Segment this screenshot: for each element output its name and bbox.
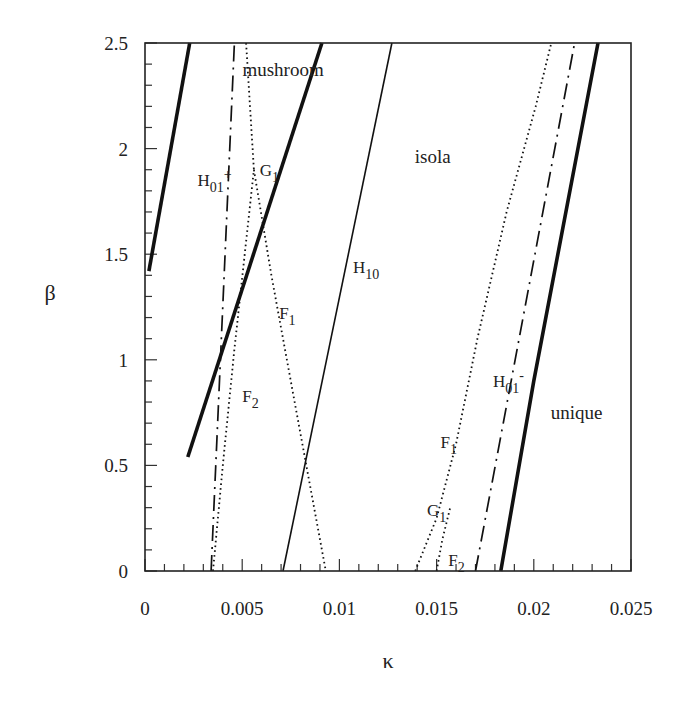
x-tick-label: 0.015	[415, 598, 458, 619]
y-tick-label: 0	[119, 561, 129, 582]
curve-h10	[283, 43, 392, 571]
curve-thick-left	[149, 43, 190, 271]
y-tick-label: 2.5	[104, 33, 128, 54]
curve-label: H01+	[197, 167, 231, 195]
curve-h01-	[476, 43, 575, 571]
y-tick-label: 2	[119, 139, 129, 160]
curve-label: F2	[448, 551, 464, 575]
plot-frame	[145, 43, 631, 571]
x-tick-labels: 00.0050.010.0150.020.025	[140, 598, 652, 619]
y-tick-label: 0.5	[104, 455, 128, 476]
curve-thick-right	[501, 43, 598, 571]
axis-ticks	[145, 43, 631, 571]
y-tick-labels: 00.511.522.5	[104, 33, 128, 582]
curve-label: G1	[427, 501, 446, 525]
curve-label: H10	[353, 258, 379, 282]
curve-h01-	[211, 43, 234, 571]
x-tick-label: 0.02	[517, 598, 550, 619]
region-label-unique: unique	[551, 402, 603, 423]
curve-f1-left	[254, 170, 326, 571]
curve-label: F1	[279, 304, 295, 328]
x-tick-label: 0.01	[323, 598, 356, 619]
region-labels: mushroomisolaunique	[242, 59, 602, 422]
bifurcation-diagram: 00.0050.010.0150.020.025 00.511.522.5 mu…	[0, 0, 693, 703]
curve-label: G1	[260, 161, 279, 185]
y-tick-label: 1	[119, 350, 129, 371]
y-axis-title: β	[44, 280, 55, 305]
region-label-mushroom: mushroom	[242, 59, 324, 80]
x-tick-label: 0	[140, 598, 150, 619]
x-axis-title: κ	[382, 648, 393, 673]
y-tick-label: 1.5	[104, 244, 128, 265]
curve-labels: H01+G1H10F1F2H01-F1G1F2	[197, 161, 524, 576]
x-tick-label: 0.025	[610, 598, 653, 619]
x-tick-label: 0.005	[221, 598, 264, 619]
curve-label: H01-	[493, 368, 524, 396]
curve-label: F2	[242, 387, 258, 411]
curve-f2-left	[213, 170, 254, 571]
curves	[149, 43, 598, 571]
curve-label: F1	[440, 433, 456, 457]
curve-f1-right	[415, 43, 551, 571]
region-label-isola: isola	[415, 146, 451, 167]
